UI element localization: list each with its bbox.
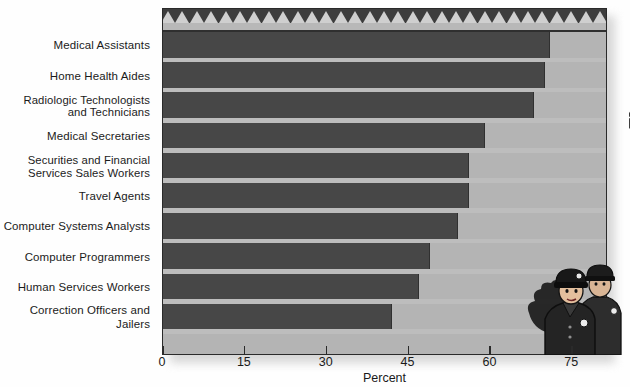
axis-tick-label: 60 <box>482 355 496 369</box>
bar <box>163 243 430 269</box>
category-label-line: Medical Secretaries <box>47 130 150 144</box>
category-label-line: Securities and Financial <box>28 154 150 167</box>
sawtooth-triangle <box>550 11 564 23</box>
bar <box>163 62 545 88</box>
category-label-line: Correction Officers and Jailers <box>0 304 150 331</box>
sawtooth-triangle <box>363 11 377 23</box>
bar-row <box>163 153 606 183</box>
bar <box>163 304 392 330</box>
category-label-line: Services Sales Workers <box>28 167 150 180</box>
sawtooth-decoration-band <box>163 9 606 23</box>
bar <box>163 183 469 209</box>
axis-tick <box>244 346 246 354</box>
category-label: Home Health Aides <box>0 61 158 91</box>
category-label: Radiologic Technologistsand Technicians <box>0 91 158 121</box>
axis-tick-label: 0 <box>159 355 166 369</box>
sawtooth-triangle <box>291 11 305 23</box>
sawtooth-triangle <box>492 11 506 23</box>
bar <box>163 153 469 179</box>
sawtooth-triangle <box>391 11 405 23</box>
sawtooth-triangle <box>377 11 391 23</box>
sawtooth-triangle <box>175 11 189 23</box>
sawtooth-triangle <box>406 11 420 23</box>
sawtooth-triangle <box>190 11 204 23</box>
sawtooth-triangle <box>262 11 276 23</box>
category-label-line: Home Health Aides <box>50 70 150 84</box>
chart-figure: Medical AssistantsHome Health AidesRadio… <box>0 0 630 387</box>
sawtooth-triangle <box>478 11 492 23</box>
category-label: Securities and FinancialServices Sales W… <box>0 152 158 182</box>
axis-tick-label: 30 <box>319 355 333 369</box>
category-label: Computer Systems Analysts <box>0 212 158 242</box>
sawtooth-triangle <box>163 11 175 23</box>
axis-title: Percent <box>162 371 607 385</box>
sawtooth-triangle <box>204 11 218 23</box>
category-label: Correction Officers and Jailers <box>0 303 158 333</box>
sawtooth-triangle <box>247 11 261 23</box>
bar-row <box>163 92 606 122</box>
category-label-line: Human Services Workers <box>18 281 150 295</box>
axis-tick-label: 45 <box>401 355 415 369</box>
category-axis-labels: Medical AssistantsHome Health AidesRadio… <box>0 31 158 333</box>
category-label-line: Travel Agents <box>79 190 150 204</box>
bar <box>163 32 550 58</box>
category-label: Computer Programmers <box>0 242 158 272</box>
sawtooth-triangle <box>593 11 606 23</box>
axis-tick <box>408 346 410 354</box>
sawtooth-triangle <box>463 11 477 23</box>
category-label: Human Services Workers <box>0 273 158 303</box>
bar-row <box>163 183 606 213</box>
category-label: Medical Secretaries <box>0 122 158 152</box>
bar <box>163 123 485 149</box>
sawtooth-triangle <box>535 11 549 23</box>
category-label-line: Computer Systems Analysts <box>4 220 150 234</box>
axis-tick <box>571 346 573 354</box>
axis-tick <box>162 346 164 354</box>
category-label-line: Medical Assistants <box>54 39 150 53</box>
category-label-line: Radiologic Technologists <box>23 94 150 107</box>
bar <box>163 213 458 239</box>
sawtooth-triangle <box>507 11 521 23</box>
sawtooth-triangle <box>334 11 348 23</box>
correction-officers-illustration <box>525 261 625 355</box>
sawtooth-triangle <box>420 11 434 23</box>
sawtooth-triangle <box>521 11 535 23</box>
sawtooth-triangle <box>579 11 593 23</box>
category-label: Travel Agents <box>0 182 158 212</box>
sawtooth-triangle <box>435 11 449 23</box>
axis-tick-label: 75 <box>564 355 578 369</box>
axis-tick-label: 15 <box>237 355 251 369</box>
axis-tick <box>326 346 328 354</box>
bar-row <box>163 32 606 62</box>
plot-area <box>162 8 607 355</box>
axis-tick <box>489 346 491 354</box>
sawtooth-triangle <box>219 11 233 23</box>
sawtooth-triangle <box>564 11 578 23</box>
sawtooth-triangle <box>348 11 362 23</box>
bar-row <box>163 62 606 92</box>
sawtooth-triangle <box>449 11 463 23</box>
category-label: Medical Assistants <box>0 31 158 61</box>
category-label-line: Computer Programmers <box>25 251 150 265</box>
category-label-line: and Technicians <box>23 106 150 119</box>
bar <box>163 92 534 118</box>
sawtooth-band-underlay <box>163 23 606 30</box>
sawtooth-triangle <box>276 11 290 23</box>
bar-row <box>163 123 606 153</box>
bar-row <box>163 213 606 243</box>
sawtooth-triangle <box>305 11 319 23</box>
sawtooth-triangle <box>319 11 333 23</box>
sawtooth-triangle <box>233 11 247 23</box>
bar <box>163 274 419 300</box>
